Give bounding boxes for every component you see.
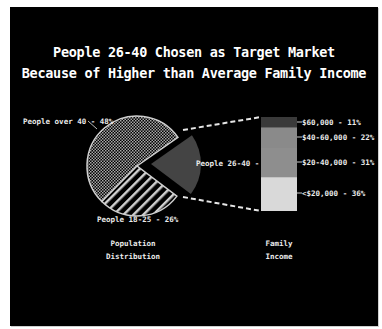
bar-segment-under-20k xyxy=(261,177,297,211)
bar-segment-20-40k xyxy=(261,148,297,177)
pie-caption-line1: Population xyxy=(110,239,155,248)
bar-label-40-60k: $40-60,000 - 22% xyxy=(302,133,375,142)
connector-bottom xyxy=(183,197,261,211)
bar-caption-line1: Family xyxy=(265,239,293,248)
bar-label-20-40k: $20-40,000 - 31% xyxy=(302,158,375,167)
chart-graphics: People over 40 - 48% People 18-25 - 26% … xyxy=(0,0,382,329)
pie-label-over-40: People over 40 - 48% xyxy=(23,117,114,126)
bar-segment-60k xyxy=(261,117,297,127)
pie-caption-line2: Distribution xyxy=(106,252,160,261)
bar-caption-line2: Income xyxy=(265,252,293,261)
bar-segment-40-60k xyxy=(261,127,297,148)
pie-label-18-25: People 18-25 - 26% xyxy=(97,215,179,224)
bar-label-under-20k: <$20,000 - 36% xyxy=(302,189,366,198)
connector-top xyxy=(183,117,261,130)
bar-label-60k: $60,000 - 11% xyxy=(302,118,361,127)
